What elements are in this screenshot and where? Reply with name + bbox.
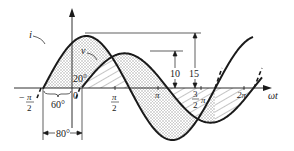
voltage-label: v [81, 45, 86, 56]
tick-minus-pi2-prefix: − [19, 92, 25, 103]
tick-3pi2-suffix: π [201, 95, 206, 105]
diagram-canvas: i v 20° 10 15 0 60° 80° − π 2 π 2 π 3 2 … [0, 0, 294, 151]
angle-v-label: 20° [73, 73, 87, 84]
y-axis-arrow-icon [69, 8, 75, 17]
tick-minus-pi2-top: π [27, 92, 32, 102]
angle-i-label: 60° [51, 99, 65, 110]
x-axis-label: ωt [268, 90, 278, 101]
tick-pi2-top: π [112, 92, 117, 102]
phase-diff-label: 80° [56, 128, 70, 139]
tick-3pi2-bottom: 2 [193, 100, 198, 110]
origin-label: 0 [73, 90, 78, 101]
current-label: i [29, 28, 32, 40]
amp-v-label: 10 [170, 68, 180, 79]
tick-pi: π [155, 90, 160, 100]
tick-minus-pi2-bottom: 2 [27, 103, 32, 113]
tick-3pi2-top: 3 [193, 89, 198, 99]
tick-2pi: 2π [237, 90, 247, 100]
phase-diagram: i v 20° 10 15 0 60° 80° − π 2 π 2 π 3 2 … [0, 0, 294, 151]
amp-i-label: 15 [189, 68, 199, 79]
tick-pi2-bottom: 2 [112, 103, 117, 113]
